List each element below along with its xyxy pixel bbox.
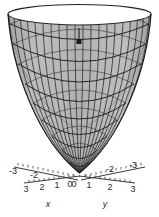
x-tick-label-1: 1 <box>54 180 59 190</box>
x-tick-label--2: -2 <box>30 170 38 180</box>
plot-canvas: -3 -2 3 2 1 0 x <box>0 0 159 217</box>
x-tick-label-3: 3 <box>23 184 28 194</box>
y-axis-label: y <box>102 199 108 209</box>
y-tick-label-2: 2 <box>107 182 112 192</box>
surface-top-rim <box>8 5 151 26</box>
paraboloid-plot-figure: -3 -2 3 2 1 0 x <box>0 0 159 217</box>
x-tick-label--3: -3 <box>9 166 17 176</box>
y-tick-label--2: -2 <box>106 164 114 174</box>
y-tick-label-3: 3 <box>130 184 135 194</box>
y-tick-label-0: 0 <box>71 179 76 189</box>
x-axis-label: x <box>45 199 51 209</box>
x-axis: -3 -2 3 2 1 0 x <box>9 163 80 209</box>
y-tick-label-1: 1 <box>86 180 91 190</box>
x-tick-label-2: 2 <box>39 182 44 192</box>
y-tick-label--3: -3 <box>129 160 137 170</box>
